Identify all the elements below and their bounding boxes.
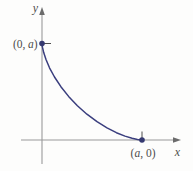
x-intercept-label: (a, 0) [131,147,156,160]
y-intercept-point [39,41,45,47]
graph-figure: (0,a) (a, 0) y x [0,0,193,171]
y-intercept-label-open: (0, [13,38,26,51]
y-axis-label-text: y [32,1,39,15]
y-axis-label: y [32,1,39,15]
x-axis-label-text: x [174,145,181,159]
figure-background [0,0,193,171]
y-intercept-label-close: ) [34,38,38,51]
x-axis-label: x [174,145,181,159]
y-intercept-label: (0,a) [13,38,38,51]
x-intercept-point [139,137,145,143]
x-intercept-label-close: , 0) [140,147,156,160]
figure-canvas: (0,a) (a, 0) y x [0,0,193,171]
